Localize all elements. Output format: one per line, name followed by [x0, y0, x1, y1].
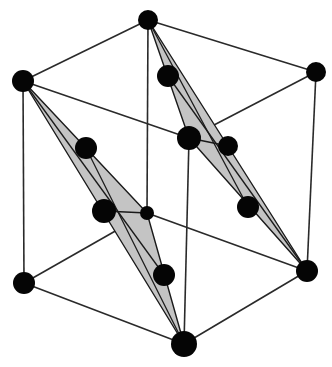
corner-atom-bottom-front	[171, 331, 197, 357]
left-plane-face-atom-0	[75, 137, 97, 159]
cube-edge-top-left-bottom-left	[23, 81, 24, 283]
corner-atom-top-right	[306, 62, 326, 82]
corner-atom-top-left	[12, 70, 34, 92]
right-plane-face-atom-1	[218, 136, 238, 156]
corner-atom-bottom-right	[296, 260, 318, 282]
right-plane-face-atom-2	[237, 196, 259, 218]
corner-atom-bottom-left	[13, 272, 35, 294]
cube-edge-top-back-bottom-back	[147, 20, 148, 213]
corner-atom-top-back	[138, 10, 158, 30]
fcc-unit-cell-diagram: Face-centered cubic unit cell with two s…	[0, 0, 332, 367]
left-plane-face-atom-1	[92, 199, 116, 223]
left-plane-face-atom-2	[153, 264, 175, 286]
corner-atom-top-front	[177, 126, 201, 150]
right-plane-face-atom-0	[157, 65, 179, 87]
corner-atom-bottom-back	[140, 206, 154, 220]
